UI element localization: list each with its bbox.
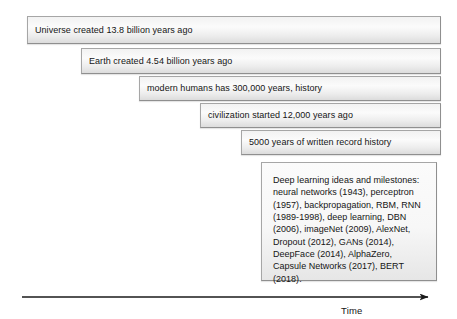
- timeline-bar: modern humans has 300,000 years, history: [139, 76, 441, 101]
- timeline-bar: Universe created 13.8 billion years ago: [27, 16, 441, 44]
- time-axis-label: Time: [341, 305, 363, 316]
- timeline-bar-label: 5000 years of written record history: [242, 137, 391, 148]
- deep-learning-milestones-text: Deep learning ideas and milestones: neur…: [273, 174, 427, 285]
- timeline-bar-label: Universe created 13.8 billion years ago: [28, 25, 193, 36]
- timeline-bar-label: modern humans has 300,000 years, history: [140, 83, 322, 94]
- timeline-bar-label: Earth created 4.54 billion years ago: [82, 56, 232, 67]
- timeline-bar: civilization started 12,000 years ago: [200, 103, 441, 128]
- timeline-bar: Earth created 4.54 billion years ago: [81, 48, 441, 74]
- timeline-bar: 5000 years of written record history: [241, 130, 441, 155]
- deep-learning-milestones-box: Deep learning ideas and milestones: neur…: [261, 162, 437, 281]
- timeline-bar-label: civilization started 12,000 years ago: [201, 110, 353, 121]
- timeline-diagram: Universe created 13.8 billion years agoE…: [0, 0, 457, 319]
